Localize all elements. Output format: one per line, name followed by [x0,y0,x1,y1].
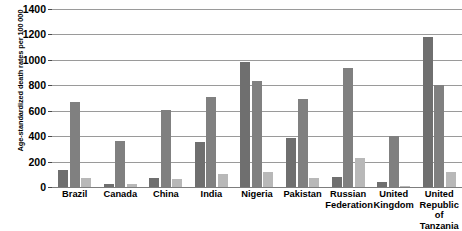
bar [309,178,319,187]
x-axis-label: Pakistan [280,189,326,200]
bar [149,178,159,187]
bar-group [325,9,371,187]
bar [400,186,410,187]
bar-group [98,9,144,187]
bar [58,170,68,187]
bar [115,141,125,187]
bar [252,81,262,187]
y-tick-label: 1400 [23,4,46,15]
bar [206,97,216,187]
bar-group [189,9,235,187]
x-axis-labels: BrazilCanadaChinaIndiaNigeriaPakistanRus… [52,189,462,231]
bar [161,110,171,187]
bar [195,142,205,187]
y-tick-label: 400 [28,131,46,142]
bar [172,179,182,187]
bar-group [143,9,189,187]
bar [70,102,80,187]
x-axis-label: United Republic of Tanzania [416,189,462,231]
bar [343,68,353,187]
chart-title-strip [0,0,462,9]
x-axis-label: Canada [98,189,144,200]
bar-group [371,9,417,187]
bar [355,158,365,187]
y-tick-label: 200 [28,156,46,167]
x-axis-label: China [143,189,189,200]
bar [104,184,114,187]
bars-layer [52,9,462,187]
y-tick-label: 800 [28,80,46,91]
bar [218,174,228,187]
bar [81,178,91,187]
y-tick-label: 600 [28,105,46,116]
bar-chart: Age-standardized death rates per 100 000… [0,0,462,231]
bar-group [52,9,98,187]
bar [434,85,444,187]
bar [240,62,250,187]
y-tick-mark [48,187,52,188]
bar-group [416,9,462,187]
bar [446,172,456,187]
y-tick-label: 1200 [23,29,46,40]
bar [423,37,433,187]
x-axis-label: Brazil [52,189,98,200]
bar [332,177,342,187]
bar [286,138,296,187]
x-axis-label: India [189,189,235,200]
bar [377,182,387,187]
plot-area: 0200400600800100012001400 [52,9,462,187]
bar [127,184,137,187]
bar [263,172,273,187]
axis-baseline [52,187,462,188]
x-axis-label: Russian Federation [325,189,371,210]
bar-group [234,9,280,187]
y-axis-title: Age-standardized death rates per 100 000 [16,0,25,164]
x-axis-label: Nigeria [234,189,280,200]
bar-group [280,9,326,187]
y-tick-label: 1000 [23,55,46,66]
bar [389,136,399,187]
x-axis-label: United Kingdom [371,189,417,210]
bar [298,99,308,187]
y-tick-label: 0 [40,182,46,193]
